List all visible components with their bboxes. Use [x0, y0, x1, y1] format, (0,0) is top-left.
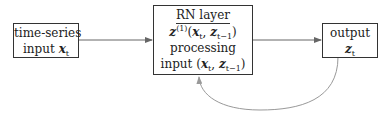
output-sub: t: [352, 49, 355, 58]
output-node: output zt: [322, 23, 378, 58]
rn-function: z(1)(xt, zt−1): [154, 24, 252, 40]
rn-title-line: RN layer: [154, 7, 252, 24]
input-var-line: input xt: [14, 41, 78, 57]
input-var: x: [59, 42, 66, 56]
input-label: time-series: [14, 25, 78, 41]
rn-processing: processing: [154, 40, 252, 56]
input-prefix: input: [23, 42, 59, 56]
rn-input-prefix: input: [161, 57, 197, 71]
input-sub: t: [66, 49, 69, 58]
input-node: time-series input xt: [13, 23, 79, 58]
rn-input: input (xt, zt−1): [154, 56, 252, 72]
output-var-line: zt: [323, 41, 377, 57]
rn-layer-node: RN layer z(1)(xt, zt−1) processing input…: [153, 5, 253, 75]
output-var: z: [345, 42, 352, 56]
rn-title: RN layer: [176, 8, 230, 24]
output-label: output: [323, 25, 377, 41]
